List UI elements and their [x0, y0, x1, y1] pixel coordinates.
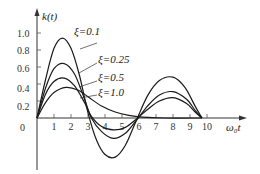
curve-label-xi-0.5: ξ=0.5: [98, 71, 124, 84]
x-tick-label: 4: [103, 121, 108, 132]
x-tick-label: 3: [86, 121, 91, 132]
x-axis-arrow-icon: [239, 116, 247, 121]
x-axis-title: ω₀t: [226, 121, 242, 133]
curve-label-xi-0.25: ξ=0.25: [98, 53, 130, 66]
y-tick-labels: 1.0 0.8 0.6 0.4 0.2 0: [17, 28, 30, 133]
y-axis-title: k(t): [42, 10, 58, 23]
x-tick-label: 10: [202, 121, 212, 132]
x-tick-label: 8: [171, 121, 176, 132]
chart: 1.0 0.8 0.6 0.4 0.2 0 1 2 3 4 5 6 7 8 9 …: [0, 0, 260, 174]
y-ticks: [37, 33, 41, 101]
y-tick-label: 1.0: [17, 28, 30, 39]
y-tick-label: 0.6: [17, 63, 30, 74]
x-tick-label: 6: [137, 121, 142, 132]
curve-label-xi-1.0: ξ=1.0: [98, 86, 124, 99]
y-tick-label: 0.8: [17, 45, 30, 56]
x-tick-label: 5: [120, 121, 125, 132]
x-tick-label: 1: [52, 121, 57, 132]
curve-label-xi-0.1: ξ=0.1: [74, 25, 100, 38]
axes: [35, 8, 248, 170]
y-axis-arrow-icon: [35, 8, 40, 16]
y-tick-label: 0.2: [17, 101, 30, 112]
origin-label: 0: [20, 122, 25, 133]
x-tick-label: 7: [154, 121, 159, 132]
x-tick-label: 2: [69, 121, 74, 132]
y-tick-label: 0.4: [17, 83, 30, 94]
x-tick-label: 9: [188, 121, 193, 132]
